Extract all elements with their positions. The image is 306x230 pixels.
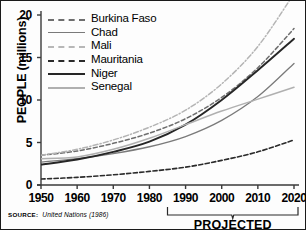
- x-tick-label: 1960: [60, 191, 94, 205]
- x-tick-label: 1950: [24, 191, 58, 205]
- x-tick-label: 2020: [277, 191, 306, 205]
- y-tick-label: 0: [6, 178, 32, 192]
- x-tick-label: 1970: [96, 191, 130, 205]
- source-note: SOURCE: United Nations (1986): [8, 211, 109, 218]
- series-line: [41, 63, 294, 162]
- y-tick-label: 10: [6, 93, 32, 107]
- y-tick-label: 15: [6, 51, 32, 65]
- source-key: SOURCE:: [8, 211, 38, 218]
- series-line: [41, 39, 294, 165]
- x-tick-label: 1990: [169, 191, 203, 205]
- y-tick-label: 5: [6, 136, 32, 150]
- chart-figure: PEOPLE (millions) Burkina FasoChadMaliMa…: [0, 0, 306, 230]
- x-tick-label: 1980: [132, 191, 166, 205]
- y-tick-label: 20: [6, 8, 32, 22]
- x-tick-label: 2010: [241, 191, 275, 205]
- source-value: United Nations (1986): [42, 211, 108, 218]
- x-tick-label: 2000: [205, 191, 239, 205]
- projected-annotation: PROJECTED: [191, 218, 275, 230]
